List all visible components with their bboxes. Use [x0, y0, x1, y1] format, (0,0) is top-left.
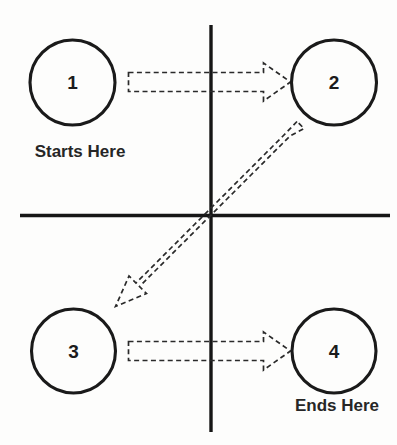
node-1[interactable]: 1 — [30, 40, 115, 125]
node-2-label: 2 — [329, 72, 340, 93]
caption-starts-here: Starts Here — [35, 142, 126, 161]
node-3-label: 3 — [68, 341, 79, 362]
node-1-label: 1 — [67, 72, 78, 93]
node-4-label: 4 — [329, 341, 340, 362]
node-4[interactable]: 4 — [292, 309, 376, 393]
quadrant-flow-diagram: 1 2 3 4 Starts Here Ends Here — [0, 0, 397, 445]
node-2[interactable]: 2 — [292, 40, 377, 125]
caption-ends-here: Ends Here — [295, 396, 379, 415]
diagram-canvas: 1 2 3 4 Starts Here Ends Here — [0, 0, 397, 445]
node-3[interactable]: 3 — [32, 309, 116, 393]
